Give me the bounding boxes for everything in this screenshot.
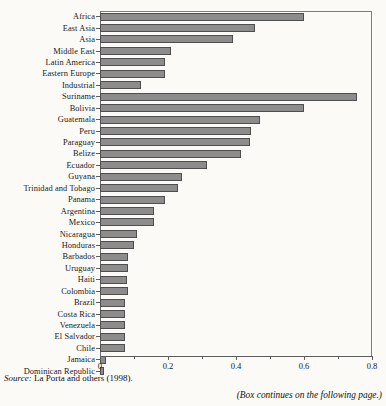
bar-track [100, 116, 260, 124]
x-axis-minor-tick [134, 356, 135, 359]
bar-track [100, 184, 178, 192]
category-label: Haiti [0, 275, 95, 284]
bar-rows: AfricaEast AsiaAsiaMiddle EastLatin Amer… [0, 11, 386, 377]
category-label: Mexico [0, 218, 95, 227]
bar-row: Belize [0, 148, 386, 159]
bar-track [100, 173, 182, 181]
bar-track [100, 321, 125, 329]
x-axis-minor-tick [202, 356, 203, 359]
bar-row: Colombia [0, 286, 386, 297]
bar-row: Trinidad and Tobago [0, 183, 386, 194]
category-label: Africa [0, 12, 95, 21]
bar [100, 207, 154, 215]
bar-track [100, 127, 251, 135]
category-label: Guyana [0, 172, 95, 181]
bar-track [100, 47, 171, 55]
bar [100, 35, 233, 43]
bar-track [100, 218, 154, 226]
category-label: Uruguay [0, 264, 95, 273]
x-axis-minor-tick [338, 356, 339, 359]
category-label: Ecuador [0, 161, 95, 170]
bar-track [100, 24, 255, 32]
bar-row: Honduras [0, 240, 386, 251]
bar-track [100, 230, 137, 238]
x-axis-tick-label: 0.8 [367, 361, 378, 371]
bar [100, 196, 165, 204]
bar [100, 276, 127, 284]
category-label: Argentina [0, 207, 95, 216]
bar [100, 253, 128, 261]
x-axis-tick-label: 0.4 [231, 361, 242, 371]
category-label: Eastern Europe [0, 69, 95, 78]
bar [100, 321, 125, 329]
bar-row: Paraguay [0, 137, 386, 148]
bar-track [100, 13, 304, 21]
category-label: Jamaica [0, 355, 95, 364]
bar-track [100, 58, 165, 66]
bar-row: El Salvador [0, 331, 386, 342]
bar [100, 127, 251, 135]
bar [100, 241, 134, 249]
bar-track [100, 35, 233, 43]
bar-row: Nicaragua [0, 228, 386, 239]
bar-row: Costa Rica [0, 308, 386, 319]
category-label: Chile [0, 344, 95, 353]
bar-row: Bolivia [0, 103, 386, 114]
bar [100, 116, 260, 124]
source-citation: La Porta and others (1998). [32, 373, 133, 383]
bar-row: Asia [0, 34, 386, 45]
bar [100, 47, 171, 55]
bar [100, 344, 125, 352]
category-label: East Asia [0, 24, 95, 33]
category-label: Venezuela [0, 321, 95, 330]
category-label: Brazil [0, 298, 95, 307]
bar-row: Venezuela [0, 320, 386, 331]
bar-row: Middle East [0, 45, 386, 56]
bar-row: Barbados [0, 251, 386, 262]
bar-track [100, 333, 125, 341]
bar-row: Uruguay [0, 263, 386, 274]
bar [100, 173, 182, 181]
category-label: Trinidad and Tobago [0, 184, 95, 193]
bar-row: Africa [0, 11, 386, 22]
x-axis-tick-label: 0.2 [163, 361, 174, 371]
category-label: Panama [0, 195, 95, 204]
category-label: Bolivia [0, 104, 95, 113]
bar [100, 58, 165, 66]
bar [100, 264, 128, 272]
bar-track [100, 264, 128, 272]
bar-row: Industrial [0, 80, 386, 91]
bar-row: Chile [0, 343, 386, 354]
bar-track [100, 241, 134, 249]
source-note: Source: La Porta and others (1998). [4, 373, 133, 383]
bar-track [100, 276, 127, 284]
category-label: Suriname [0, 92, 95, 101]
bar-track [100, 93, 357, 101]
x-axis-minor-tick [270, 356, 271, 359]
bar-row: Suriname [0, 91, 386, 102]
bar-track [100, 207, 154, 215]
category-label: Belize [0, 149, 95, 158]
bar-row: Argentina [0, 205, 386, 216]
bar-track [100, 104, 304, 112]
category-label: Guatemala [0, 115, 95, 124]
bar-row: Brazil [0, 297, 386, 308]
x-axis-tick [236, 356, 237, 360]
box-continues-note: (Box continues on the following page.) [237, 390, 382, 400]
category-label: Peru [0, 127, 95, 136]
category-label: El Salvador [0, 332, 95, 341]
category-label: Honduras [0, 241, 95, 250]
bar [100, 184, 178, 192]
bar-row: Eastern Europe [0, 68, 386, 79]
x-axis-tick [168, 356, 169, 360]
bar-row: Latin America [0, 57, 386, 68]
category-label: Asia [0, 35, 95, 44]
x-axis-tick [372, 356, 373, 360]
bar [100, 70, 165, 78]
bar-row: Mexico [0, 217, 386, 228]
bar [100, 299, 125, 307]
category-label: Nicaragua [0, 230, 95, 239]
bar-row: Ecuador [0, 160, 386, 171]
bar-row: Peru [0, 125, 386, 136]
bar-track [100, 138, 250, 146]
